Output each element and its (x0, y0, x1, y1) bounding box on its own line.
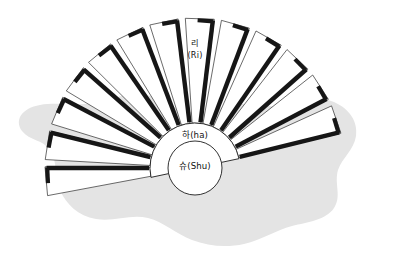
fan-blade-outer-cap (47, 168, 48, 184)
fan-blade-outer-cap (198, 20, 214, 21)
hub-core-label-shu: 슈(Shu) (179, 161, 211, 171)
blade-label-ri-hangul: 리 (191, 38, 199, 48)
hub-arc-label-ha: 하(ha) (182, 130, 208, 140)
fan-blade-outer-cap (162, 21, 177, 24)
diagram-canvas: 리 (Ri) 하(ha) 슈(Shu) (0, 0, 393, 276)
fan-blade-outer-cap (49, 132, 52, 147)
blade-label-ri-romanization: (Ri) (187, 50, 202, 60)
folding-fan-diagram: 리 (Ri) 하(ha) 슈(Shu) (0, 0, 393, 276)
